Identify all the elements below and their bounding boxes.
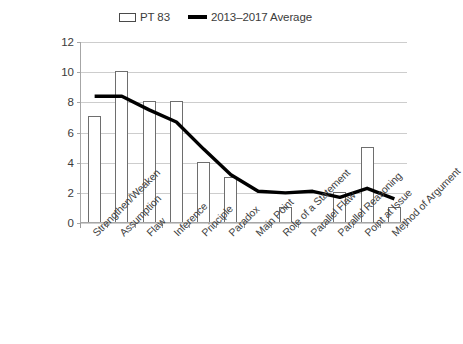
x-axis-labels: Strengthen/WeakenAssumptionFlawInference…	[0, 228, 431, 344]
y-tick-label: 12	[46, 36, 74, 48]
legend-label-pt83: PT 83	[140, 11, 170, 23]
bar-swatch-icon	[119, 13, 136, 22]
line-swatch-icon	[188, 15, 207, 19]
y-tick-label: 6	[46, 127, 74, 139]
y-tick-label: 4	[46, 157, 74, 169]
legend-entry-pt83[interactable]: PT 83	[119, 11, 170, 23]
legend-entry-average[interactable]: 2013–2017 Average	[188, 11, 312, 23]
legend-label-average: 2013–2017 Average	[211, 11, 312, 23]
y-tick-label: 8	[46, 96, 74, 108]
chart-legend: PT 83 2013–2017 Average	[0, 11, 431, 23]
y-tick-label: 10	[46, 66, 74, 78]
y-tick-label: 2	[46, 187, 74, 199]
